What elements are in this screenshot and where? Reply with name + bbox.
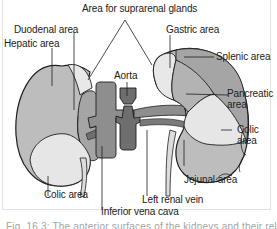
label-splenic-area: Splenic area [216,51,270,62]
label-inferior-vena-cava: Inferior vena cava [101,206,179,217]
label-colic-area-right-line2: area [237,135,257,146]
label-jejunal-area: Jejunal area [184,174,237,185]
label-pancreatic-area-line2: area [227,99,247,110]
label-left-renal-vein: Left renal vein [142,194,203,205]
label-colic-area-right-line1: Colic [237,124,259,135]
label-colic-area-left: Colic area [44,189,88,200]
label-gastric-area: Gastric area [166,24,219,35]
label-hepatic-area: Hepatic area [4,38,60,49]
left-renal-vein-shape [134,105,188,118]
right-kidney [16,64,108,197]
aorta-shape [116,88,140,150]
label-pancreatic-area-line1: Pancreatic [227,88,273,99]
label-aorta: Aorta [114,70,137,81]
label-suprarenal-area: Area for suprarenal glands [82,3,197,14]
figure-caption: Fig. 16.3: The anterior surfaces of the … [6,221,277,229]
label-duodenal-area: Duodenal area [14,24,78,35]
